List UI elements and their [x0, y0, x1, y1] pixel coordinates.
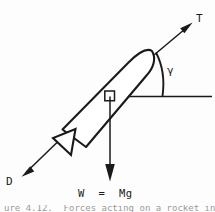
- figure-caption-text: ure 4.12. Forces acting on a rocket in f…: [4, 205, 215, 212]
- figure-caption-clipped: ure 4.12. Forces acting on a rocket in f…: [0, 205, 215, 212]
- drag-label: D: [6, 176, 13, 187]
- rocket-body-icon: [63, 50, 155, 147]
- diagram-canvas: [0, 0, 215, 212]
- rocket-nozzle-icon: [53, 129, 76, 155]
- weight-label: W = Mg: [78, 188, 133, 199]
- thrust-label: T: [196, 13, 203, 24]
- angle-arc-icon: [156, 53, 163, 97]
- free-body-diagram: T D γ W = Mg ure 4.12. Forces acting on …: [0, 0, 215, 212]
- flight-path-angle-label: γ: [167, 65, 174, 76]
